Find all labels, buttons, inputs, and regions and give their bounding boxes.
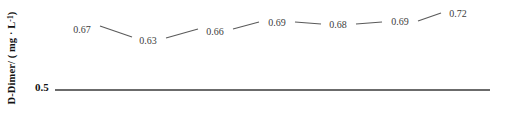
series-segment-1 bbox=[166, 29, 198, 38]
series-segment-2 bbox=[233, 22, 259, 29]
series-segment-4 bbox=[356, 22, 382, 24]
data-point-label-0: 0.67 bbox=[73, 24, 91, 35]
data-point-label-1: 0.63 bbox=[139, 35, 157, 46]
data-point-label-3: 0.69 bbox=[268, 17, 286, 28]
series-segment-0 bbox=[100, 26, 132, 37]
data-point-label-5: 0.69 bbox=[391, 16, 409, 27]
d-dimer-line-chart: D-Dimer/ ( mg · L-1 ) 0.5 0.670.630.660.… bbox=[0, 0, 509, 116]
plot-area bbox=[0, 0, 509, 116]
series-segment-3 bbox=[295, 22, 321, 24]
data-point-label-4: 0.68 bbox=[329, 19, 347, 30]
series-segment-5 bbox=[418, 13, 441, 21]
data-point-label-6: 0.72 bbox=[449, 8, 467, 19]
data-point-label-2: 0.66 bbox=[206, 26, 224, 37]
